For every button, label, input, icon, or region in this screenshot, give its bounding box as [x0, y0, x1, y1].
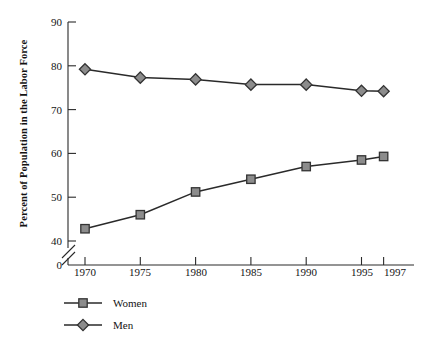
data-point-men-1997 [378, 86, 389, 97]
series-line-women [85, 157, 384, 229]
data-point-men-1995 [356, 85, 367, 96]
legend-markers [64, 299, 102, 331]
data-point-women-1980 [191, 188, 199, 196]
axis-lines [62, 22, 414, 265]
data-point-men-1970 [79, 64, 90, 75]
x-axis-ticks [85, 257, 384, 265]
data-point-men-1990 [301, 79, 312, 90]
legend-label-men: Men [113, 319, 133, 331]
data-point-women-1997 [379, 152, 387, 160]
data-point-men-1985 [245, 79, 256, 90]
data-point-women-1995 [357, 156, 365, 164]
legend-marker-women [79, 299, 87, 307]
data-series-layer [79, 64, 389, 233]
legend-marker-men [77, 319, 88, 330]
line-chart-figure: Percent of Population in the Labor Force… [0, 0, 430, 340]
data-point-women-1975 [136, 211, 144, 219]
data-point-women-1990 [302, 162, 310, 170]
data-point-men-1980 [190, 74, 201, 85]
plot-area [0, 0, 430, 340]
series-men [79, 64, 389, 97]
y-axis-ticks [68, 22, 76, 241]
data-point-women-1985 [247, 175, 255, 183]
legend-label-women: Women [113, 297, 147, 309]
series-line-men [85, 69, 384, 91]
data-point-women-1970 [81, 225, 89, 233]
data-point-men-1975 [135, 72, 146, 83]
series-women [81, 152, 388, 233]
